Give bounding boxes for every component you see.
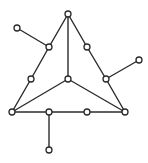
graph-diagram [0,0,148,163]
edge-left-upper-to-left-lower [31,47,49,79]
node-pendant-bottom [46,147,52,153]
edge-left-upper-to-pendant-top-left [17,28,49,47]
node-pendant-right [136,57,142,63]
edge-center-to-bottom-right [68,79,125,112]
node-top [65,11,71,17]
node-bottom-left [9,109,15,115]
edge-top-to-right-upper [68,14,87,47]
node-right-upper [84,44,90,50]
edge-right-upper-to-right-lower [87,47,106,79]
node-bottom-right [122,109,128,115]
edge-center-to-bottom-left [12,79,68,112]
edge-top-to-left-upper [49,14,68,47]
node-bottom-mid-left [46,109,52,115]
node-right-lower [103,76,109,82]
edge-right-lower-to-pendant-right [106,60,139,79]
graph-nodes [9,11,142,153]
node-center [65,76,71,82]
node-left-lower [28,76,34,82]
node-bottom-mid-right [84,109,90,115]
node-pendant-top-left [14,25,20,31]
node-left-upper [46,44,52,50]
